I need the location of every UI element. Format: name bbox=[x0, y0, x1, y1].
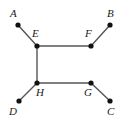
node-label-h: H bbox=[36, 87, 44, 98]
node-a[interactable] bbox=[15, 22, 20, 27]
node-e[interactable] bbox=[34, 43, 39, 48]
node-c[interactable] bbox=[107, 98, 112, 103]
graph-diagram: ABCDEFGH bbox=[0, 0, 129, 126]
node-label-f: F bbox=[85, 28, 92, 39]
edge-d-h bbox=[19, 83, 37, 101]
node-label-d: D bbox=[9, 106, 17, 117]
node-layer bbox=[15, 22, 112, 103]
node-label-a: A bbox=[10, 8, 17, 19]
node-label-b: B bbox=[107, 8, 114, 19]
node-g[interactable] bbox=[88, 80, 93, 85]
node-b[interactable] bbox=[107, 22, 112, 27]
node-h[interactable] bbox=[34, 80, 39, 85]
edge-b-f bbox=[91, 25, 110, 46]
node-label-g: G bbox=[84, 87, 92, 98]
edge-g-c bbox=[91, 83, 110, 101]
node-label-c: C bbox=[107, 106, 114, 117]
node-f[interactable] bbox=[88, 43, 93, 48]
node-d[interactable] bbox=[16, 98, 21, 103]
node-label-e: E bbox=[32, 28, 39, 39]
